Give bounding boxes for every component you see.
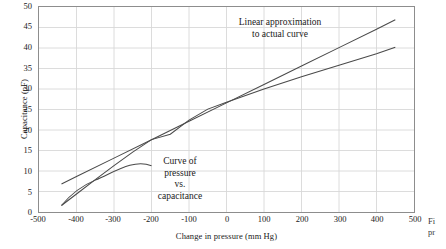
figure-caption-line-2: pr xyxy=(428,227,446,238)
y-tick-label-30: 30 xyxy=(0,84,32,93)
y-tick-label-20: 20 xyxy=(0,126,32,135)
series-actual-curve-path xyxy=(61,47,395,205)
y-tick-label-15: 15 xyxy=(0,146,32,155)
figure-caption-line-1: Fi xyxy=(428,216,446,227)
x-axis-title: Change in pressure (mm Hg) xyxy=(38,231,415,241)
annotation-linear-approximation: Linear approximation to actual curve xyxy=(215,17,345,40)
y-tick-label-45: 45 xyxy=(0,22,32,31)
figure-capacitance-vs-pressure: Capacitance (pF) 50 45 40 35 30 25 20 15… xyxy=(0,0,446,249)
y-tick-label-25: 25 xyxy=(0,105,32,114)
y-tick-label-40: 40 xyxy=(0,43,32,52)
y-tick-label-10: 10 xyxy=(0,167,32,176)
figure-caption: Fi pr xyxy=(428,216,446,238)
annotation-curve-of-pressure: Curve of pressure vs. capacitance xyxy=(132,156,228,202)
y-tick-label-5: 5 xyxy=(0,188,32,197)
y-tick-label-50: 50 xyxy=(0,2,32,11)
y-tick-label-35: 35 xyxy=(0,64,32,73)
